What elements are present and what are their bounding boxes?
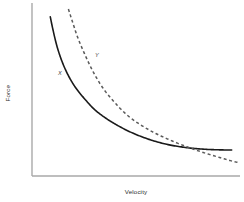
chart-plot-area [0,0,244,202]
x-axis-title: Velocity [32,189,240,195]
series-x-label: X [58,71,62,77]
series-y-label: Y [95,53,99,59]
series-y-curve [68,9,238,162]
y-axis-title: Force [5,76,11,110]
force-velocity-chart: Force Velocity X Y [0,0,244,202]
